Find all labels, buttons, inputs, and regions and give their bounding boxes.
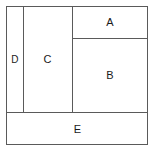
region-d-label: D bbox=[11, 55, 18, 65]
region-b-label: B bbox=[106, 70, 114, 81]
region-a: A bbox=[72, 7, 148, 38]
region-c-label: C bbox=[43, 54, 51, 65]
region-c: C bbox=[23, 7, 72, 112]
region-e: E bbox=[7, 113, 148, 145]
region-e-label: E bbox=[74, 124, 82, 135]
region-a-label: A bbox=[106, 17, 114, 28]
region-d: D bbox=[7, 7, 23, 112]
region-b: B bbox=[72, 38, 148, 112]
rectangle-partition-diagram: A B C D E bbox=[0, 0, 157, 153]
